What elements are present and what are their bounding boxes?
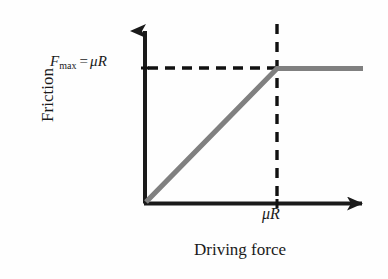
axes-group — [144, 31, 362, 204]
guideline-group — [148, 24, 277, 203]
chart-canvas — [0, 0, 388, 279]
friction-curve — [146, 69, 363, 203]
friction-curve-group — [146, 69, 363, 203]
friction-chart-figure: Fmax=μR μR Driving force Friction — [0, 0, 388, 279]
